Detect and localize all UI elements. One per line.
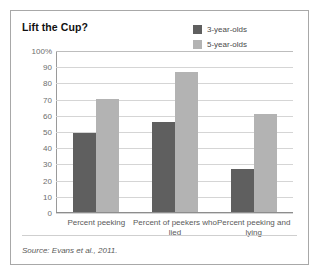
bar-0	[231, 169, 254, 212]
bar-1	[254, 114, 277, 212]
legend-label: 3-year-olds	[207, 25, 247, 34]
y-axis-tick-label: 50	[43, 128, 52, 137]
legend-swatch	[193, 25, 202, 34]
legend-label: 5-year-olds	[207, 40, 247, 49]
y-axis-tick-label: 100%	[32, 47, 52, 56]
legend-item: 3-year-olds	[193, 23, 247, 35]
bar-0	[152, 122, 175, 212]
y-axis-tick-label: 70	[43, 95, 52, 104]
bar-0	[73, 133, 96, 212]
source-divider	[22, 235, 297, 236]
y-axis-tick-label: 0	[48, 209, 52, 218]
bar-groups: Percent peekingPercent of peekers who li…	[57, 51, 293, 212]
bar-group: Percent peeking and lying	[214, 51, 293, 212]
y-axis-tick-label: 90	[43, 63, 52, 72]
legend-swatch	[193, 40, 202, 49]
bar-group: Percent peeking	[57, 51, 136, 212]
y-axis-tick-label: 30	[43, 160, 52, 169]
y-axis-tick-label: 80	[43, 79, 52, 88]
chart-title: Lift the Cup?	[22, 21, 88, 33]
bar-1	[96, 99, 119, 213]
chart-legend: 3-year-olds5-year-olds	[193, 23, 247, 53]
chart-figure: Lift the Cup? 100%9080706050403020100 Pe…	[10, 10, 309, 265]
plot-area: 100%9080706050403020100 Percent peekingP…	[56, 51, 293, 213]
y-axis-tick-label: 20	[43, 176, 52, 185]
y-axis-tick-label: 40	[43, 144, 52, 153]
bar-group: Percent of peekers who lied	[136, 51, 215, 212]
x-axis-category-label: Percent peeking	[53, 218, 139, 228]
gridline: 0	[56, 213, 293, 214]
source-note: Source: Evans et al., 2011.	[22, 246, 117, 255]
legend-item: 5-year-olds	[193, 38, 247, 50]
y-axis-tick-label: 10	[43, 192, 52, 201]
bar-1	[175, 72, 198, 212]
y-axis-tick-label: 60	[43, 111, 52, 120]
